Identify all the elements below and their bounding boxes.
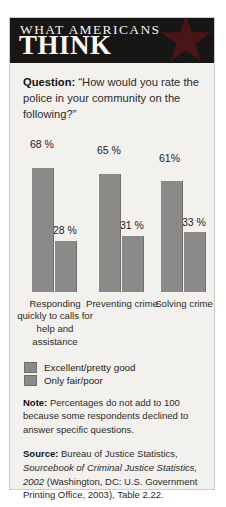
bar-group-responding: 68 % 28 % [24, 132, 86, 292]
bar-fairpoor [184, 232, 206, 292]
legend-swatch-excellent [24, 362, 37, 373]
source-text-part1: Bureau of Justice Statistics, [58, 448, 177, 459]
legend-swatch-fairpoor [24, 375, 37, 386]
question-block: Question: “How would you rate the police… [23, 75, 202, 123]
star-icon [160, 18, 212, 63]
category-label: Solving crime [146, 298, 222, 311]
category-labels: Responding quickly to calls for help and… [10, 298, 214, 360]
bar-group-solving: 61% 33 % [153, 132, 215, 292]
note-block: Note: Percentages do not add to 100 beca… [23, 396, 201, 437]
infographic-card: WHAT AMERICANS THINK Question: “How woul… [9, 17, 215, 490]
legend-item: Excellent/pretty good [24, 362, 214, 373]
header-line-2: THINK [19, 32, 112, 59]
legend-label: Only fair/poor [44, 375, 103, 386]
source-text-part2: (Washington, DC: U.S. Government Printin… [23, 476, 197, 501]
note-label: Note: [23, 397, 47, 408]
source-label: Source: [23, 448, 58, 459]
legend-item: Only fair/poor [24, 375, 214, 386]
header-banner: WHAT AMERICANS THINK [10, 18, 214, 63]
note-text: Percentages do not add to 100 because so… [23, 397, 188, 436]
bar-excellent [99, 174, 121, 292]
bar-fairpoor [55, 241, 77, 292]
chart-legend: Excellent/pretty good Only fair/poor [24, 362, 214, 386]
question-label: Question: [23, 76, 75, 88]
legend-label: Excellent/pretty good [44, 362, 136, 373]
bar-fairpoor [122, 236, 144, 292]
bar-excellent [161, 181, 183, 292]
bar-group-preventing: 65 % 31 % [91, 132, 153, 292]
category-label: Responding quickly to calls for help and… [17, 298, 93, 349]
source-block: Source: Bureau of Justice Statistics, So… [23, 447, 201, 502]
bar-chart: 68 % 28 % 65 % 31 % 61% 33 % [10, 132, 214, 292]
bar-excellent [32, 168, 54, 292]
